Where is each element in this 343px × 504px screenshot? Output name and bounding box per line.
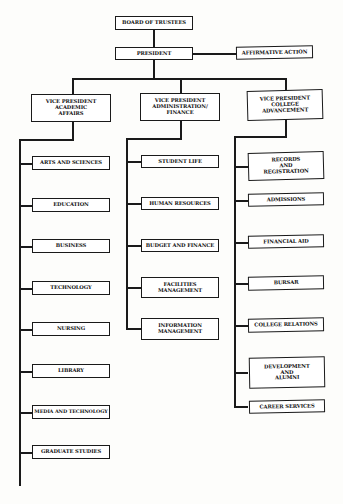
tick bbox=[234, 200, 248, 202]
unit-college-relations: COLLEGE RELATIONS bbox=[248, 317, 324, 332]
president-affirmative-connector bbox=[192, 53, 236, 55]
vp2-elbow bbox=[126, 138, 182, 140]
affirmative-action-box: AFFIRMATIVE ACTION bbox=[236, 45, 313, 59]
vp1-down bbox=[72, 122, 74, 139]
tick bbox=[19, 163, 32, 165]
vp2-spine bbox=[126, 138, 128, 329]
board-president-connector bbox=[153, 30, 155, 48]
vp1-spine bbox=[19, 139, 21, 486]
tick bbox=[19, 371, 32, 373]
president-down-connector bbox=[153, 60, 155, 78]
unit-financial-aid: FINANCIAL AID bbox=[248, 234, 324, 248]
tick bbox=[19, 452, 32, 454]
tick bbox=[126, 161, 141, 163]
unit-student-life: STUDENT LIFE bbox=[141, 155, 219, 168]
unit-media-and-technology: MEDIA AND TECHNOLOGY bbox=[32, 405, 110, 419]
unit-graduate-studies: GRADUATE STUDIES bbox=[32, 445, 110, 459]
tick bbox=[234, 166, 248, 168]
vp2-drop bbox=[180, 78, 182, 93]
vp3-drop bbox=[285, 78, 287, 90]
tick bbox=[126, 328, 141, 330]
unit-career-services: CAREER SERVICES bbox=[249, 399, 325, 413]
unit-records-and-registration: RECORDS AND REGISTRATION bbox=[248, 151, 325, 181]
vp-college-advancement-box: VICE PRESIDENT COLLEGE ADVANCEMENT bbox=[247, 89, 324, 121]
tick bbox=[234, 283, 248, 285]
vp1-drop bbox=[72, 78, 74, 94]
tick bbox=[234, 372, 248, 374]
unit-nursing: NURSING bbox=[32, 322, 110, 336]
vp3-down bbox=[285, 120, 287, 136]
unit-information-management: INFORMATION MANAGEMENT bbox=[141, 318, 219, 340]
unit-arts-and-sciences: ARTS AND SCIENCES bbox=[32, 156, 110, 170]
unit-admissions: ADMISSIONS bbox=[248, 192, 324, 206]
tick bbox=[126, 245, 141, 247]
vp-academic-affairs-box: VICE PRESIDENT ACADEMIC AFFAIRS bbox=[31, 94, 111, 122]
tick bbox=[19, 288, 32, 290]
unit-human-resources: HUMAN RESOURCES bbox=[141, 197, 219, 210]
unit-library: LIBRARY bbox=[32, 364, 110, 378]
vp3-spine bbox=[234, 136, 236, 407]
vp3-elbow bbox=[234, 136, 287, 138]
tick bbox=[234, 406, 248, 408]
board-of-trustees-box: BOARD OF TRUSTEES bbox=[115, 16, 193, 30]
president-box: PRESIDENT bbox=[115, 47, 193, 60]
unit-facilities-management: FACILITIES MANAGEMENT bbox=[141, 277, 219, 298]
tick bbox=[126, 203, 141, 205]
vp-horizontal-bus bbox=[72, 78, 286, 80]
tick bbox=[19, 246, 32, 248]
vp-administration-finance-box: VICE PRESIDENT ADMINISTRATION/ FINANCE bbox=[140, 93, 220, 121]
tick bbox=[234, 242, 248, 244]
tick bbox=[19, 412, 32, 414]
unit-bursar: BURSAR bbox=[248, 275, 324, 290]
unit-education: EDUCATION bbox=[32, 198, 110, 212]
unit-business: BUSINESS bbox=[32, 239, 110, 253]
unit-budget-and-finance: BUDGET AND FINANCE bbox=[141, 239, 219, 252]
tick bbox=[234, 325, 248, 327]
tick bbox=[126, 287, 141, 289]
vp2-down bbox=[180, 121, 182, 138]
tick bbox=[19, 205, 32, 207]
tick bbox=[19, 329, 32, 331]
unit-development-and-alumni: DEVELOPMENT AND ALUMNI bbox=[249, 356, 326, 388]
vp1-elbow bbox=[19, 139, 74, 141]
unit-technology: TECHNOLOGY bbox=[32, 281, 110, 295]
